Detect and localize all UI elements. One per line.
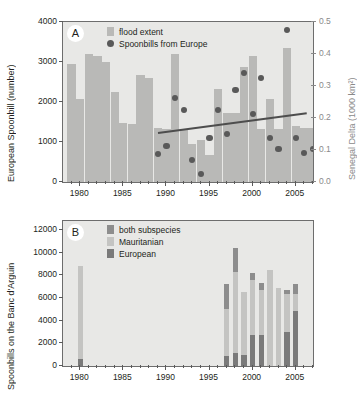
x-tick-mark <box>252 365 253 370</box>
x-tick-label: 2000 <box>232 188 272 198</box>
y-tick-label: 4000 <box>14 315 57 325</box>
flood-extent-bar <box>257 129 265 182</box>
panel-b-letter: B <box>67 224 84 241</box>
x-tick-mark <box>88 181 89 184</box>
x-tick-mark <box>88 365 89 368</box>
legend-label-flood-extent: flood extent <box>119 27 163 37</box>
x-tick-mark <box>234 181 235 184</box>
bar-segment-mauritanian <box>267 270 272 366</box>
spoonbill-dot-swatch-icon <box>107 40 114 47</box>
x-tick-mark <box>191 181 192 184</box>
legend-item-mauritanian: Mauritanian <box>107 236 180 247</box>
bar-segment-european <box>259 335 264 366</box>
stacked-bar <box>250 221 255 366</box>
x-tick-mark <box>140 365 141 368</box>
x-tick-label: 2000 <box>232 372 272 382</box>
stacked-bar <box>284 221 289 366</box>
stacked-bar <box>233 221 238 366</box>
y-tick-mark <box>59 181 63 182</box>
x-tick-label: 1980 <box>59 372 99 382</box>
bar-segment-mauritanian <box>78 266 83 359</box>
x-tick-label: 1985 <box>102 188 142 198</box>
x-tick-mark <box>200 181 201 184</box>
x-tick-mark <box>114 365 115 368</box>
y-tick-label: 12000 <box>14 224 57 234</box>
flood-extent-bar <box>93 56 101 182</box>
y-tick-label-right: 0.4 <box>319 48 349 58</box>
x-tick-label: 1980 <box>59 188 99 198</box>
x-tick-mark <box>226 181 227 184</box>
y-tick-mark <box>59 365 63 366</box>
y-tick-mark-right <box>311 53 316 54</box>
flood-extent-bar <box>128 124 136 182</box>
x-tick-mark <box>165 181 166 186</box>
x-tick-mark <box>71 181 72 184</box>
flood-extent-bar <box>85 54 93 182</box>
x-tick-mark <box>79 181 80 186</box>
x-tick-mark <box>234 365 235 368</box>
flood-extent-bar <box>274 129 282 182</box>
y-tick-label: 10000 <box>14 247 57 257</box>
x-tick-mark <box>209 365 210 370</box>
x-tick-mark <box>278 365 279 368</box>
x-tick-label: 2005 <box>275 372 315 382</box>
x-tick-mark <box>217 181 218 184</box>
legend-label-spoonbills-from-europe: Spoonbills from Europe <box>119 39 207 49</box>
flood-extent-bar <box>136 75 144 182</box>
flood-extent-bar <box>111 92 119 182</box>
x-tick-mark <box>260 181 261 184</box>
x-tick-mark <box>269 181 270 184</box>
y-tick-mark-right <box>311 149 316 150</box>
spoonbill-data-point <box>284 27 290 33</box>
flood-extent-bar <box>67 64 75 182</box>
y-tick-mark-right <box>311 21 316 22</box>
bar-segment-european <box>250 335 255 366</box>
x-tick-mark <box>157 365 158 368</box>
x-tick-mark <box>200 365 201 368</box>
spoonbill-data-point <box>206 135 212 141</box>
x-tick-label: 2005 <box>275 188 315 198</box>
flood-extent-bar <box>309 128 314 182</box>
x-tick-mark <box>122 181 123 186</box>
x-tick-mark <box>148 181 149 184</box>
flood-extent-bar <box>214 89 222 182</box>
panel-b: Spoonbills on the Banc d'Arguin 02000400… <box>0 205 364 417</box>
x-tick-mark <box>131 365 132 368</box>
stacked-bar <box>267 221 272 366</box>
spoonbill-data-point <box>155 151 161 157</box>
spoonbill-data-point <box>250 111 256 117</box>
legend-item-flood-extent: flood extent <box>107 26 207 37</box>
x-tick-mark <box>191 365 192 368</box>
y-tick-label: 1000 <box>14 136 57 146</box>
y-tick-label: 3000 <box>14 56 57 66</box>
legend-item-both-subspecies: both subspecies <box>107 224 180 235</box>
y-tick-label: 0 <box>14 176 57 186</box>
x-tick-mark <box>243 181 244 184</box>
bar-segment-mauritanian <box>250 280 255 335</box>
stacked-bar <box>259 221 264 366</box>
bar-segment-both-subspecies <box>293 284 298 294</box>
legend-label-european: European <box>119 249 156 259</box>
y-tick-mark <box>59 274 63 275</box>
x-tick-label: 1985 <box>102 372 142 382</box>
mauritanian-swatch-icon <box>107 237 114 246</box>
stacked-bar <box>293 221 298 366</box>
flood-extent-bar <box>180 129 188 182</box>
flood-extent-bar <box>145 78 153 182</box>
y-tick-mark <box>59 61 63 62</box>
x-tick-label: 1995 <box>189 372 229 382</box>
y-tick-label-right: 0.3 <box>319 80 349 90</box>
bar-segment-mauritanian <box>284 294 289 331</box>
x-tick-mark <box>260 365 261 368</box>
y-tick-mark <box>59 320 63 321</box>
x-tick-mark <box>183 181 184 184</box>
bar-segment-both-subspecies <box>233 248 238 272</box>
x-tick-mark <box>79 365 80 370</box>
legend-label-mauritanian: Mauritanian <box>119 237 163 247</box>
x-tick-mark <box>303 181 304 184</box>
bar-segment-mauritanian <box>259 290 264 335</box>
y-tick-mark <box>59 101 63 102</box>
x-tick-mark <box>217 365 218 368</box>
x-tick-mark <box>174 181 175 184</box>
spoonbill-data-point <box>163 143 169 149</box>
